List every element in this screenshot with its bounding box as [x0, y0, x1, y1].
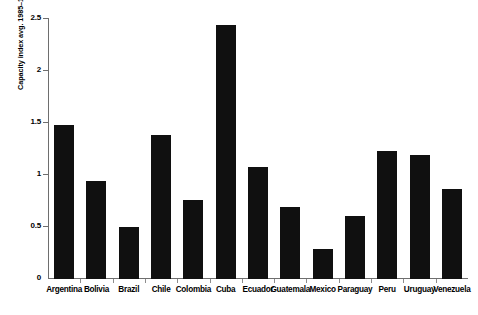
x-axis-tick-mark [371, 279, 372, 283]
y-axis-tick-label: 0.5 [15, 222, 41, 230]
bar [377, 151, 397, 279]
x-axis-tick-mark [306, 279, 307, 283]
y-axis-tick-label: 2 [15, 66, 41, 74]
bar [86, 181, 106, 279]
x-axis-tick-mark [242, 279, 243, 283]
y-axis-tick-label: 0 [15, 274, 41, 282]
bar [280, 207, 300, 279]
x-axis-tick-mark [210, 279, 211, 283]
bar [216, 25, 236, 279]
x-axis-tick-mark [274, 279, 275, 283]
bar [410, 155, 430, 279]
y-axis-line [48, 18, 49, 279]
x-axis-tick-mark [403, 279, 404, 283]
bar-chart: Capacity index avg. 1985–1995 00.511.522… [0, 0, 478, 315]
bar [151, 135, 171, 279]
bar [119, 227, 139, 279]
x-axis-tick-mark [145, 279, 146, 283]
x-axis-tick-mark [113, 279, 114, 283]
y-axis-tick-label: 1 [15, 170, 41, 178]
x-axis-category-label: Venezuela [430, 285, 474, 295]
x-axis-tick-mark [436, 279, 437, 283]
x-axis-tick-mark [80, 279, 81, 283]
bar [345, 216, 365, 279]
x-axis-tick-mark [339, 279, 340, 283]
x-axis-tick-mark [177, 279, 178, 283]
y-axis-tick-label: 2.5 [15, 14, 41, 22]
bar [248, 167, 268, 279]
y-axis-tick-label: 1.5 [15, 118, 41, 126]
bar [313, 249, 333, 279]
bar [442, 189, 462, 279]
bar [54, 125, 74, 279]
bar [183, 200, 203, 279]
